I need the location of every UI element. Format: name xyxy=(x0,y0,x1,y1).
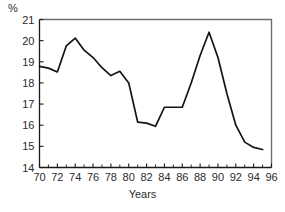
y-tick-label: 20 xyxy=(22,35,34,47)
y-tick-label: 16 xyxy=(22,119,34,131)
x-axis-tick-labels: 7072747678808284868890929496 xyxy=(33,171,277,183)
data-series-line xyxy=(40,32,263,149)
chart-container: % 1415161718192021 707274767880828486889… xyxy=(0,0,285,212)
x-tick-label: 70 xyxy=(33,171,45,183)
y-tick-label: 15 xyxy=(22,140,34,152)
x-tick-label: 82 xyxy=(140,171,152,183)
y-tick-label: 17 xyxy=(22,98,34,110)
line-chart-plot: 1415161718192021 70727476788082848688909… xyxy=(0,0,285,212)
x-tick-label: 86 xyxy=(176,171,188,183)
plot-frame-border xyxy=(40,20,272,168)
x-tick-label: 88 xyxy=(194,171,206,183)
x-tick-label: 74 xyxy=(69,171,81,183)
x-tick-label: 92 xyxy=(230,171,242,183)
y-axis-tick-labels: 1415161718192021 xyxy=(22,14,34,174)
x-tick-label: 90 xyxy=(212,171,224,183)
x-tick-label: 96 xyxy=(265,171,277,183)
x-tick-label: 80 xyxy=(123,171,135,183)
y-tick-label: 18 xyxy=(22,77,34,89)
x-tick-label: 94 xyxy=(248,171,260,183)
x-tick-label: 72 xyxy=(51,171,63,183)
y-tick-label: 19 xyxy=(22,56,34,68)
x-axis-title: Years xyxy=(0,188,285,200)
x-tick-label: 84 xyxy=(158,171,170,183)
x-tick-label: 76 xyxy=(87,171,99,183)
y-tick-label: 21 xyxy=(22,14,34,26)
x-tick-label: 78 xyxy=(105,171,117,183)
plot-frame xyxy=(40,20,272,168)
